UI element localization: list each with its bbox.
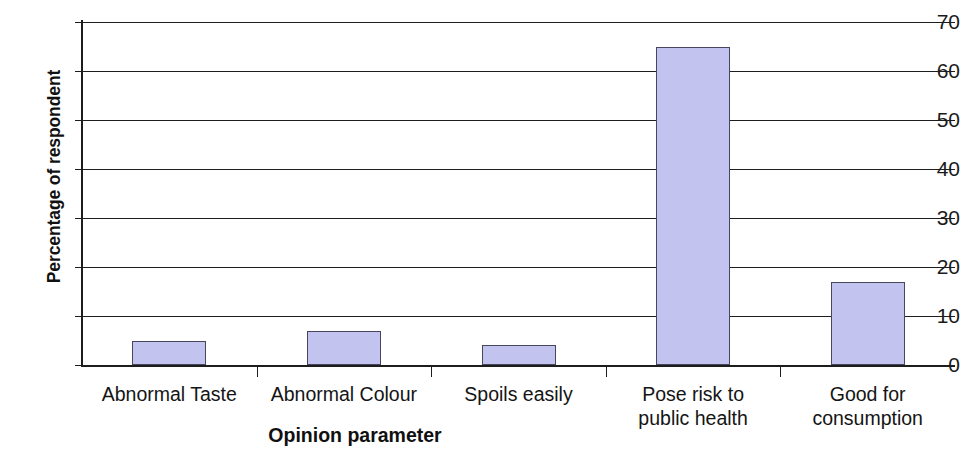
gridline	[82, 71, 955, 72]
x-axis-title: Opinion parameter	[82, 424, 628, 447]
bar	[132, 341, 206, 366]
bar	[831, 282, 905, 365]
bar	[482, 345, 556, 365]
plot-area	[82, 22, 955, 365]
gridline	[82, 267, 955, 268]
gridline	[82, 316, 955, 317]
x-axis-tick	[431, 366, 432, 377]
gridline	[82, 169, 955, 170]
gridline	[82, 218, 955, 219]
x-axis-tick	[780, 366, 781, 377]
bar-chart: Percentage of respondent 706050403020100…	[0, 0, 960, 449]
gridline	[82, 120, 955, 121]
gridline	[82, 22, 955, 23]
x-axis-category-label: Good for consumption	[780, 382, 955, 430]
gridline	[82, 365, 955, 367]
bar	[656, 47, 730, 366]
x-axis-category-label: Abnormal Taste	[82, 382, 257, 406]
y-axis-title: Percentage of respondent	[44, 27, 65, 327]
x-axis-category-label: Pose risk to public health	[606, 382, 781, 430]
x-axis-tick	[257, 366, 258, 377]
bar	[307, 331, 381, 365]
x-axis-category-label: Abnormal Colour	[257, 382, 432, 406]
x-axis-tick	[606, 366, 607, 377]
x-axis-category-label: Spoils easily	[431, 382, 606, 406]
